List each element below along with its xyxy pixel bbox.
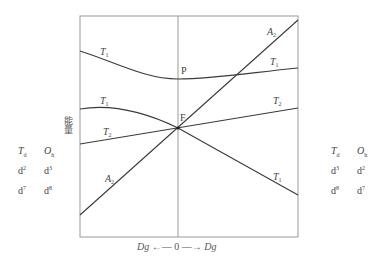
right-arrow-icon: —→ [182, 241, 202, 252]
left-cell: d8 [44, 185, 70, 196]
left-header-td: Td [18, 145, 44, 158]
right-config-table: Td Oh d3 d2 d8 d7 [331, 141, 383, 201]
curve-label-upper-t1-left: T1 [100, 46, 109, 58]
a2-line [80, 20, 298, 215]
curve-label-a2-left: A2 [104, 173, 114, 185]
x-axis-left-label: Dg [137, 241, 149, 252]
right-table-header: Td Oh [331, 141, 383, 161]
right-cell: d7 [357, 185, 383, 196]
curve-label-lower-t1-right: T1 [273, 171, 282, 183]
right-header-oh: Oh [357, 145, 383, 158]
right-cell: d8 [331, 185, 357, 196]
t2-line [80, 108, 298, 144]
upper-t1-curve [80, 51, 298, 79]
right-header-td: Td [331, 145, 357, 158]
curve-label-a2-right: A2 [266, 26, 276, 38]
x-axis-label: Dg ←— 0 —→ Dg [137, 241, 216, 252]
left-arrow-icon: ←— [152, 241, 172, 252]
curve-label-t2-right: T2 [273, 95, 282, 107]
point-f-label: F [180, 112, 186, 123]
curve-label-t2-left: T2 [103, 126, 112, 138]
curve-label-upper-t1-right: T1 [270, 56, 279, 68]
x-axis-right-label: Dg [204, 241, 216, 252]
right-cell: d3 [331, 165, 357, 176]
right-table-row: d8 d7 [331, 181, 383, 201]
left-config-table: Td Oh d2 d3 d7 d8 [18, 141, 70, 201]
right-cell: d2 [357, 165, 383, 176]
y-axis-label: 能量 [62, 116, 75, 134]
curve-label-lower-t1-left: T1 [100, 95, 109, 107]
orgel-diagram-canvas: P F T1 T1 T2 A2 A2 T1 T2 T1 [0, 0, 387, 268]
right-table-row: d3 d2 [331, 161, 383, 181]
x-axis-center-label: 0 [174, 241, 179, 252]
left-table-row: d2 d3 [18, 161, 70, 181]
left-cell: d3 [44, 165, 70, 176]
point-p-label: P [181, 65, 187, 76]
left-header-oh: Oh [44, 145, 70, 158]
point-f-marker [176, 126, 179, 129]
lower-t1-curve-left [80, 108, 178, 128]
left-cell: d7 [18, 185, 44, 196]
lower-t1-line-right [178, 128, 298, 195]
left-table-header: Td Oh [18, 141, 70, 161]
left-table-row: d7 d8 [18, 181, 70, 201]
left-cell: d2 [18, 165, 44, 176]
